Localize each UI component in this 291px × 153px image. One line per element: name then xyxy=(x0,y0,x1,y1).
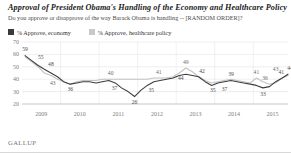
x-axis-tick-label: 2010 xyxy=(74,111,86,117)
legend-label-healthcare: % Approve, healthcare policy xyxy=(98,29,172,36)
data-point-label: 41 xyxy=(156,69,162,75)
y-axis-tick-label: 30 xyxy=(13,89,19,95)
plot-area: 2030405060705955484336403726413549444235… xyxy=(0,38,291,124)
data-point-label: 37 xyxy=(222,86,228,92)
data-point-label: 26 xyxy=(132,99,138,105)
series-line-economy xyxy=(25,56,288,97)
chart-legend: % Approve, economy % Approve, healthcare… xyxy=(8,27,171,37)
data-point-label: 44 xyxy=(287,65,291,71)
y-axis-tick-label: 50 xyxy=(13,64,19,70)
data-point-label: 41 xyxy=(278,69,284,75)
y-axis-tick-label: 20 xyxy=(13,101,19,107)
y-axis-tick-label: 40 xyxy=(13,76,19,82)
data-point-label: 36 xyxy=(262,75,268,81)
line-chart-svg: 2030405060705955484336403726413549444235… xyxy=(0,38,291,124)
legend-item-economy: % Approve, economy xyxy=(8,29,71,36)
x-axis-tick-label: 2014 xyxy=(228,111,240,117)
data-point-label: 44 xyxy=(178,75,184,81)
data-point-label: 49 xyxy=(183,59,189,65)
data-point-label: 42 xyxy=(199,68,205,74)
x-axis-tick-label: 2011 xyxy=(112,111,124,117)
data-point-label: 43 xyxy=(50,80,56,86)
data-point-label: 35 xyxy=(210,87,216,93)
data-point-label: 41 xyxy=(254,69,260,75)
data-point-label: 48 xyxy=(48,61,54,67)
legend-label-economy: % Approve, economy xyxy=(17,29,71,36)
source-attribution: GALLUP xyxy=(8,139,36,146)
x-axis-tick-label: 2012 xyxy=(151,111,163,117)
data-point-label: 36 xyxy=(67,86,73,92)
data-point-label: 37 xyxy=(112,85,118,91)
data-point-label: 55 xyxy=(38,54,44,60)
data-point-label: 59 xyxy=(22,46,28,52)
data-point-label: 35 xyxy=(148,87,154,93)
x-axis-tick-label: 2015 xyxy=(267,111,279,117)
x-axis-tick-label: 2009 xyxy=(35,111,47,117)
data-point-label: 33 xyxy=(260,91,266,97)
x-axis-tick-label: 2013 xyxy=(189,111,201,117)
chart-subtitle: Do you approve or disapprove of the way … xyxy=(8,14,288,22)
page-title: Approval of President Obama's Handling o… xyxy=(8,3,288,13)
legend-swatch-healthcare-icon xyxy=(89,29,95,35)
data-point-label: 40 xyxy=(108,70,114,76)
gallup-chart-figure: Approval of President Obama's Handling o… xyxy=(0,0,291,153)
y-axis-tick-label: 70 xyxy=(13,39,19,45)
y-axis-tick-label: 60 xyxy=(13,51,19,57)
legend-item-healthcare: % Approve, healthcare policy xyxy=(89,29,172,36)
legend-swatch-economy-icon xyxy=(8,29,14,35)
data-point-label: 39 xyxy=(228,71,234,77)
